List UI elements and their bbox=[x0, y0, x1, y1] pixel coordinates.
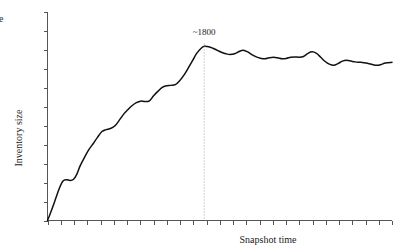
y-axis bbox=[44, 12, 48, 222]
y-axis-title: Inventory size bbox=[13, 109, 24, 166]
corner-clipped-text: e bbox=[0, 13, 4, 24]
axis-titles: Inventory size Snapshot time bbox=[13, 109, 297, 245]
x-axis-title: Snapshot time bbox=[240, 234, 298, 245]
inventory-size-line bbox=[48, 46, 393, 220]
peak-annotation-label: ~1800 bbox=[193, 27, 216, 37]
data-series-group bbox=[48, 46, 393, 220]
corner-glyph-label: e bbox=[0, 13, 4, 24]
x-axis-ticks bbox=[49, 221, 393, 225]
line-chart: e ~1800 Inventory size Snapshot time bbox=[0, 0, 406, 250]
chart-figure: e ~1800 Inventory size Snapshot time bbox=[0, 0, 406, 250]
x-axis bbox=[48, 221, 393, 225]
y-axis-ticks bbox=[44, 13, 48, 222]
peak-annotation: ~1800 bbox=[193, 27, 216, 221]
